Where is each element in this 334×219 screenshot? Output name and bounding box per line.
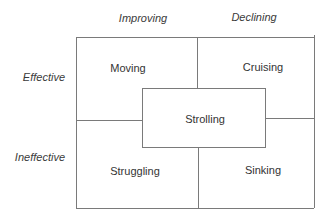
quadrant-label-cruising: Cruising <box>243 61 283 74</box>
frame-top-line <box>76 37 314 38</box>
left-horizontal-divider <box>77 120 142 121</box>
frame-right-line <box>314 35 315 208</box>
school-effectiveness-matrix: Improving Declining Effective Ineffectiv… <box>0 0 334 219</box>
bottom-vertical-divider <box>198 148 199 208</box>
right-horizontal-divider <box>266 118 314 119</box>
top-vertical-divider <box>197 37 198 88</box>
column-header-declining: Declining <box>231 11 276 24</box>
frame-left-line <box>76 37 77 209</box>
quadrant-label-struggling: Struggling <box>110 165 160 178</box>
frame-bottom-line <box>77 208 314 209</box>
quadrant-label-sinking: Sinking <box>245 164 281 177</box>
row-header-ineffective: Ineffective <box>15 151 65 164</box>
column-header-improving: Improving <box>119 12 167 25</box>
quadrant-label-moving: Moving <box>110 62 145 75</box>
row-header-effective: Effective <box>23 71 65 84</box>
quadrant-label-strolling: Strolling <box>185 113 225 126</box>
